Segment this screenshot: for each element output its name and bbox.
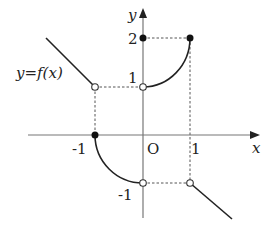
y-tick-1: 1 [128,69,138,87]
x-axis-arrow-icon [250,131,260,139]
right-line [190,183,232,219]
y-axis-label: y [127,6,137,24]
closed-point [187,35,194,42]
y-axis-arrow-icon [139,8,147,18]
open-point [140,180,147,187]
upper-arc [143,38,190,87]
axes [28,12,255,218]
open-point [140,84,147,91]
curve [46,38,232,219]
x-axis-label: x [252,139,261,157]
y-tick-2: 2 [128,30,138,48]
open-point [92,84,99,91]
open-point [187,180,194,187]
closed-point [92,132,99,139]
y-tick-neg1: -1 [118,186,133,204]
x-tick-neg1: -1 [72,140,87,158]
x-tick-1: 1 [191,140,201,158]
function-graph: y x O -1 1 2 1 -1 y=f(x) [0,0,274,231]
closed-point [140,35,147,42]
lower-arc [95,135,143,183]
origin-label: O [147,140,159,158]
function-label: y=f(x) [15,64,63,82]
